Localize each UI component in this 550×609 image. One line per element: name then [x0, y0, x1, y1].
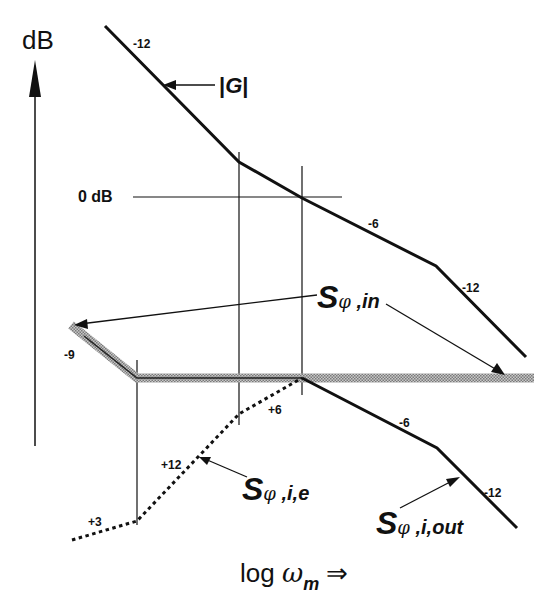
S-phi-i-e-slope-label-3: +6	[268, 404, 282, 416]
S-phi-in-label: Sφ ,in	[317, 281, 380, 313]
S-phi-i-out-slope-label-1: -6	[399, 417, 410, 429]
G-label-bar-right: |	[242, 73, 248, 98]
S-phi-i-out-subscript: ,i,out	[410, 516, 463, 538]
S-phi-i-e-phi: φ	[263, 483, 276, 504]
right-double-arrow-icon: ⇒	[326, 558, 348, 588]
S-phi-i-out-curve	[302, 378, 517, 528]
S-phi-in-symbol: S	[317, 279, 338, 315]
S-phi-i-out-symbol: S	[376, 505, 397, 541]
S-phi-i-e-subscript: ,i,e	[276, 482, 309, 504]
x-axis-label: log ωm ⇒	[240, 560, 348, 593]
y-axis-arrow-icon	[29, 60, 41, 97]
S-phi-in-phi: φ	[338, 291, 351, 312]
G-slope-label-2: -6	[368, 218, 379, 230]
S-phi-i-out-phi: φ	[397, 517, 410, 538]
y-axis-label: dB	[22, 27, 54, 53]
x-axis-label-omega: ω	[282, 558, 303, 588]
S-phi-i-out-label: Sφ ,i,out	[376, 507, 463, 539]
G-label-name: G	[225, 73, 242, 98]
S-phi-i-e-symbol: S	[242, 471, 263, 507]
S-phi-i-e-slope-label-1: +3	[88, 516, 102, 528]
S-phi-in-slope-label: -9	[64, 349, 75, 361]
G-curve	[105, 26, 526, 357]
x-axis-label-log: log	[240, 558, 282, 588]
S-phi-i-out-slope-label-2: -12	[484, 487, 501, 499]
S-phi-i-e-label: Sφ ,i,e	[242, 473, 309, 505]
bode-diagram: dB 0 dB |G| -12 -6 -12 Sφ ,in -9 Sφ ,i,e…	[0, 0, 550, 609]
zero-db-label: 0 dB	[78, 189, 113, 205]
y-axis	[29, 60, 41, 446]
x-axis-label-subscript: m	[303, 574, 319, 594]
S-phi-i-e-slope-label-2: +12	[161, 459, 181, 471]
G-slope-label-1: -12	[133, 38, 150, 50]
G-slope-label-3: -12	[462, 282, 479, 294]
G-label: |G|	[219, 75, 248, 97]
S-phi-in-subscript: ,in	[351, 290, 380, 312]
diagram-graphics	[0, 0, 550, 609]
